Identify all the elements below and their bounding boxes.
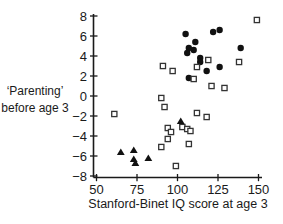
data-point-triangle (117, 148, 125, 155)
data-point-square (191, 76, 196, 81)
y-tick-label: 8 (80, 9, 87, 24)
data-point-circle (237, 45, 243, 51)
x-tick-label: 125 (207, 182, 229, 197)
data-point-circle (210, 29, 216, 35)
data-point-square (204, 114, 209, 119)
data-point-square (160, 63, 165, 68)
y-tick-label: 2 (80, 69, 87, 84)
data-point-circle (192, 39, 198, 45)
y-tick-label: 6 (80, 29, 87, 44)
data-point-square (170, 68, 175, 73)
y-tick-label: 4 (80, 49, 87, 64)
data-point-square (159, 144, 164, 149)
x-axis-label: Stanford-Binet IQ score at age 3 (63, 197, 283, 211)
data-point-square (194, 64, 199, 69)
x-tick-label: 150 (248, 182, 270, 197)
data-point-square (188, 128, 193, 133)
y-tick-label: −4 (72, 129, 87, 144)
x-tick-label: 75 (130, 182, 144, 197)
data-point-triangle (130, 155, 138, 162)
data-point-square (222, 85, 227, 90)
data-point-circle (216, 64, 222, 70)
data-point-square (209, 83, 214, 88)
data-point-square (168, 129, 173, 134)
data-point-square (254, 17, 259, 22)
data-point-square (162, 104, 167, 109)
data-point-square (165, 136, 170, 141)
x-tick-label: 100 (167, 182, 189, 197)
data-point-square (236, 59, 241, 64)
y-tick-label: −2 (72, 109, 87, 124)
data-point-triangle (130, 146, 138, 153)
y-tick-label: −8 (72, 169, 87, 184)
x-tick-label: 50 (89, 182, 103, 197)
data-point-square (206, 57, 211, 62)
y-tick-label: −6 (72, 149, 87, 164)
data-point-triangle (177, 117, 185, 124)
scatter-figure: ‘Parenting’ before age 3 86420−2−4−6−850… (0, 0, 283, 224)
data-point-circle (184, 50, 190, 56)
data-point-square (194, 110, 199, 115)
data-point-circle (216, 27, 222, 33)
data-point-square (173, 163, 178, 168)
data-point-triangle (144, 154, 152, 161)
data-point-circle (182, 31, 188, 37)
scatter-plot: 86420−2−4−6−85075100125150 (0, 0, 283, 224)
data-point-circle (191, 47, 197, 53)
data-point-square (112, 111, 117, 116)
data-point-circle (203, 68, 209, 74)
data-point-square (186, 141, 191, 146)
y-tick-label: 0 (80, 89, 87, 104)
data-point-square (159, 95, 164, 100)
